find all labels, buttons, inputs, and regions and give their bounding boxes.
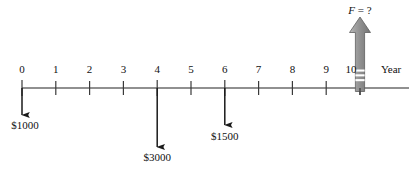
axis-tick-label-3: 3 <box>121 64 127 75</box>
axis-tick-label-8: 8 <box>290 64 296 75</box>
outflow-arrows <box>22 88 225 147</box>
diagram-canvas <box>0 0 411 177</box>
axis-tick-label-2: 2 <box>87 64 93 75</box>
future-value-block-arrow <box>350 17 371 95</box>
axis-tick-label-4: 4 <box>154 64 160 75</box>
axis-title-year: Year <box>381 64 401 75</box>
block-arrow-band-3 <box>355 79 364 81</box>
cash-flow-diagram: 0 1 2 3 4 5 6 7 8 9 10 Year $1000 $3000 … <box>0 0 411 177</box>
future-value-question: = ? <box>355 4 372 16</box>
axis-tick-label-10: 10 <box>346 64 357 75</box>
axis-tick-label-6: 6 <box>222 64 228 75</box>
future-value-label: F = ? <box>348 5 371 16</box>
cash-flow-label-year-0: $1000 <box>11 120 39 131</box>
block-arrow-band-2 <box>355 74 364 76</box>
axis-tick-label-1: 1 <box>53 64 59 75</box>
axis-tick-label-9: 9 <box>323 64 329 75</box>
axis-tick-label-5: 5 <box>188 64 194 75</box>
axis-tick-label-7: 7 <box>256 64 262 75</box>
cash-flow-label-year-4: $3000 <box>143 152 171 163</box>
cash-flow-label-year-6: $1500 <box>211 131 239 142</box>
block-arrow-band-1 <box>355 70 364 72</box>
future-value-symbol: F <box>348 4 355 16</box>
axis-tick-label-0: 0 <box>19 64 25 75</box>
